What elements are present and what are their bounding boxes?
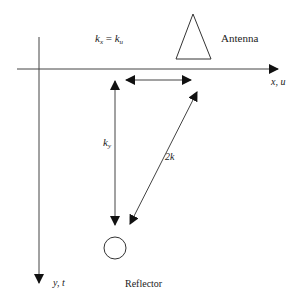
ky-sub: y bbox=[108, 142, 111, 150]
two-k-arrow bbox=[130, 92, 197, 224]
ky-label: ky bbox=[103, 136, 111, 150]
antenna-label: Antenna bbox=[221, 32, 258, 44]
x-axis-label: x, u bbox=[271, 76, 285, 87]
diagram-canvas: kx = ku Antenna x, u y, t ky 2k Reflecto… bbox=[0, 0, 302, 307]
y-axis-label: y, t bbox=[53, 277, 65, 288]
antenna-icon bbox=[176, 14, 211, 59]
two-k-label: 2k bbox=[165, 151, 174, 162]
kx-equals-ku-label: kx = ku bbox=[95, 32, 123, 46]
reflector-icon bbox=[104, 237, 126, 259]
reflector-label: Reflector bbox=[125, 278, 162, 289]
ku-sub: u bbox=[120, 38, 124, 46]
diagram-graphics bbox=[0, 0, 302, 307]
equals-sign: = bbox=[103, 32, 115, 44]
